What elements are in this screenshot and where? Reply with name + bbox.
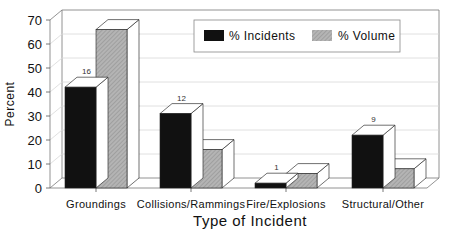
y-tick-label: 10 [28, 157, 42, 172]
bar-chart: 010203040506070 % Incidents% Volume Perc… [0, 0, 449, 240]
legend-swatch-incidents [204, 30, 224, 41]
count-annotation: 9 [371, 115, 376, 124]
x-axis-label: Type of Incident [193, 212, 307, 229]
legend-label-incidents: % Incidents [229, 29, 295, 43]
chart-legend: % Incidents% Volume [194, 20, 400, 52]
x-category-label: Collisions/Rammings [137, 198, 246, 210]
x-category-label: Groundings [66, 198, 126, 210]
legend-swatch-volume [312, 30, 332, 41]
y-axis-label: Percent [3, 81, 17, 126]
y-tick-label: 20 [28, 133, 42, 148]
y-tick-label: 70 [28, 13, 42, 28]
x-category-label: Structural/Other [342, 198, 424, 210]
y-tick-label: 40 [28, 85, 42, 100]
y-tick-label: 0 [35, 181, 42, 196]
bar-incidents [352, 125, 395, 188]
count-annotation: 16 [82, 67, 91, 76]
bar-incidents [65, 77, 108, 188]
count-annotation: 1 [274, 163, 279, 172]
bar-incidents [160, 104, 203, 188]
x-category-label: Fire/Explosions [246, 198, 326, 210]
legend-label-volume: % Volume [338, 29, 395, 43]
y-tick-label: 30 [28, 109, 42, 124]
y-tick-label: 50 [28, 61, 42, 76]
y-tick-label: 60 [28, 37, 42, 52]
count-annotation: 12 [177, 94, 186, 103]
